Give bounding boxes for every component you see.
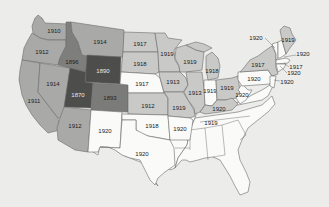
us-map: 1910 1912 1911 1914 1896 1914 1890 1870 … xyxy=(0,0,329,207)
label-mn: 1919 xyxy=(160,51,174,57)
state-ma xyxy=(276,58,290,64)
label-ks: 1912 xyxy=(141,103,155,109)
label-ma: 1920 xyxy=(287,70,301,76)
label-ny: 1917 xyxy=(251,62,265,68)
label-in: 1919 xyxy=(203,88,217,94)
label-mt: 1914 xyxy=(93,39,107,45)
label-ar: 1920 xyxy=(173,126,187,132)
state-az xyxy=(57,107,91,152)
label-il: 1913 xyxy=(188,90,202,96)
label-tn: 1919 xyxy=(204,120,218,126)
label-co: 1893 xyxy=(103,95,117,101)
state-nj xyxy=(270,76,276,88)
label-wa: 1910 xyxy=(47,28,61,34)
label-nv: 1914 xyxy=(46,81,60,87)
label-me: 1919 xyxy=(281,37,295,43)
label-wv: 1920 xyxy=(235,92,249,98)
label-pa: 1920 xyxy=(247,76,261,82)
label-nh: 1920 xyxy=(296,51,310,57)
label-ut: 1870 xyxy=(71,92,85,98)
label-or: 1912 xyxy=(35,49,49,55)
label-az: 1912 xyxy=(68,123,82,129)
label-nm: 1920 xyxy=(98,128,112,134)
label-vt: 1920 xyxy=(249,35,263,41)
label-oh: 1919 xyxy=(220,85,234,91)
label-wi: 1919 xyxy=(183,59,197,65)
label-ky: 1920 xyxy=(212,106,226,112)
label-sd: 1918 xyxy=(133,61,147,67)
label-ne: 1917 xyxy=(135,81,149,87)
label-nd: 1917 xyxy=(133,41,147,47)
state-ri-ct xyxy=(276,64,286,72)
label-tx: 1920 xyxy=(135,151,149,157)
label-mi: 1918 xyxy=(205,68,219,74)
label-id: 1896 xyxy=(65,59,79,65)
label-ct: 1920 xyxy=(280,79,294,85)
label-mo: 1919 xyxy=(172,105,186,111)
label-ok: 1918 xyxy=(145,123,159,129)
label-ia: 1913 xyxy=(166,79,180,85)
label-wy: 1890 xyxy=(96,68,110,74)
label-ca: 1911 xyxy=(28,98,42,104)
